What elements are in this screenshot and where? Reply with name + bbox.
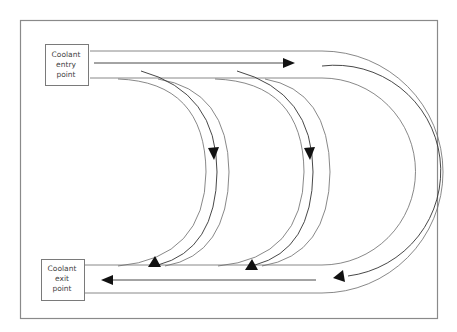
arrow-right-icon bbox=[283, 58, 295, 68]
arrow-down-left-icon bbox=[333, 270, 345, 282]
arrow-down-icon bbox=[208, 147, 219, 160]
entry-label-line2: entry bbox=[56, 60, 76, 69]
coolant-flow-diagram: Coolant entry point Coolant exit point bbox=[0, 0, 457, 332]
arrow-up-icon bbox=[148, 256, 161, 267]
entry-label-line1: Coolant bbox=[52, 50, 81, 59]
arrow-left-icon bbox=[101, 275, 113, 285]
coolant-entry-point: Coolant entry point bbox=[46, 45, 89, 86]
exit-label-line3: point bbox=[52, 284, 71, 293]
exit-label-line1: Coolant bbox=[48, 264, 77, 273]
middle-channel bbox=[215, 71, 330, 270]
coolant-exit-point: Coolant exit point bbox=[42, 260, 85, 301]
outer-channel bbox=[84, 51, 443, 293]
exit-label-line2: exit bbox=[55, 274, 69, 283]
entry-label-line3: point bbox=[56, 70, 75, 79]
arrow-down-icon bbox=[304, 147, 315, 160]
inner-channel bbox=[118, 71, 229, 267]
